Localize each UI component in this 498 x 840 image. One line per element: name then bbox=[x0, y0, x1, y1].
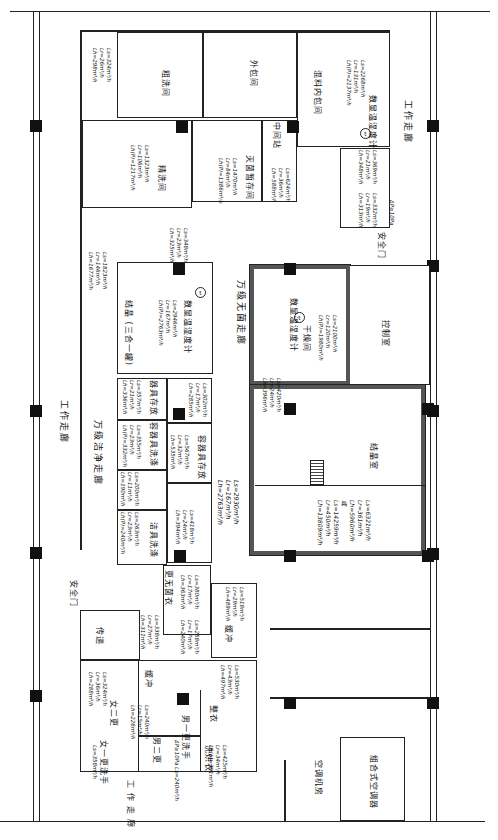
room-name-tidy-clothes: 整衣 bbox=[209, 705, 220, 723]
air-data-rough-wash: Ls=324m³/hLr=26m³/hLh=298m³/h bbox=[91, 48, 112, 83]
room-name-clean-tool-wash: 洁具洗涤 bbox=[149, 522, 160, 558]
air-data-tidy-clothes: Ls=530m³/hLr=43m³/hLh=497m³/h bbox=[219, 665, 240, 700]
air-data-men-change2: Ls=240m³/hLr=15m³/hLh=226m³/h bbox=[129, 705, 150, 740]
room-name-sterile-change: 更无菌衣 bbox=[164, 570, 175, 606]
air-data-container-storage: Ls=567m³/hLr=32m³/hLh=535m³/h bbox=[169, 435, 190, 470]
room-buffer-1 bbox=[80, 610, 140, 660]
column bbox=[176, 121, 188, 133]
column bbox=[177, 693, 189, 705]
column bbox=[287, 121, 299, 133]
air-data-sterile-corridor: Ls=2930m³/hLr=167m³/hLh=2763m³/h bbox=[216, 480, 240, 525]
column bbox=[284, 403, 296, 415]
room-name-rough-wash: 粗洗间 bbox=[161, 70, 172, 97]
room-name-mix-inner-pack: 混料内包间 bbox=[313, 70, 324, 115]
air-data-top-vestibule: Ls=348m³/hLr=23m³/hLh=325m³/h bbox=[168, 228, 189, 263]
air-data-sterile-change: Ls=380m³/hLr=17m³/hLh=363m³/h bbox=[179, 575, 200, 610]
room-name-buffer-3: 缓冲 bbox=[224, 625, 235, 643]
column bbox=[30, 405, 42, 417]
air-data-intermediate-station: Ls=624m³/hLr=36m³/hLh=588m³/h bbox=[270, 168, 291, 203]
room-name-intermediate-station: 中间站 bbox=[272, 122, 283, 149]
column bbox=[173, 408, 185, 420]
air-data-women-change1: Ls=358m³/h bbox=[91, 745, 98, 779]
room-name-outer-pack: 外包间 bbox=[249, 60, 260, 87]
sensor-label: 数显温湿度计 bbox=[289, 298, 300, 352]
room-name-women-change2: 女二更 bbox=[109, 700, 120, 727]
label-safety-door-right: 安全门 bbox=[377, 232, 388, 259]
room-name-crystallize-3in1: 结晶 (三合一罐) bbox=[124, 300, 135, 366]
air-data-sterile-storage: Ls=1470m³/hLr=84m³/hLh(P)=1386m³/h bbox=[217, 158, 238, 204]
air-data-airlock-center: Ls=420m³/hLr=24m³/hLh=396m³/h bbox=[261, 378, 282, 413]
room-name-tool-storage: 器具存放 bbox=[149, 380, 160, 416]
label-safety-door-left: 安全门 bbox=[69, 580, 80, 607]
room-name-buffer-1: 缓冲 bbox=[144, 670, 155, 688]
column bbox=[422, 403, 434, 415]
air-data-small-room: Ls=418m³/hLr=24m³/hLh=394m³/h bbox=[174, 510, 195, 545]
air-data-buffer-2: Ls=258m³/hLr=17m³/hLh=240m³/h bbox=[179, 620, 200, 655]
locker-divider bbox=[200, 690, 201, 772]
label-work-corridor-bottom: 工作走廊 bbox=[126, 780, 137, 832]
air-data-crystallize: Ls=6321m³/hLr=361m³/hLh=5960m³/h或Ls=1425… bbox=[316, 500, 372, 545]
column bbox=[30, 547, 42, 559]
air-data-mix-inner-pack: Ls=2268m³/hLr=131m³/hLh(P)=2137m³/h bbox=[345, 60, 366, 106]
column bbox=[174, 550, 186, 562]
ac-room-wall bbox=[270, 628, 430, 630]
air-data-container-wash: Ls=355m³/hLr=23m³/hLh(P)=332m³/h bbox=[121, 425, 142, 467]
crystallize-divider bbox=[255, 485, 425, 486]
label-pass-box: 传递 bbox=[95, 627, 106, 645]
thermo-hygrometer-icon: t bbox=[195, 287, 206, 298]
air-data-clean-tool-wash-a: Ls=200m³/hLr=11m³/hLh=190m³/h bbox=[119, 472, 140, 507]
room-name-sterile-storage: 灭菌暂存间 bbox=[245, 155, 256, 200]
room-name-container-storage: 容器具存放 bbox=[197, 435, 208, 480]
room-name-control: 控制室 bbox=[381, 320, 392, 347]
air-data-left-corridor: Ls=1823m³/hLr=146m³/hLh=1677m³/h bbox=[87, 252, 108, 290]
room-name-container-wash: 容器具洗涤 bbox=[149, 422, 160, 467]
label-clean-corridor: 万级洁净走廊 bbox=[92, 420, 105, 486]
air-data-wash-clothes: Ls=425m³/hLr=34m³/hLh(p)=391m³/h bbox=[207, 745, 228, 787]
column bbox=[173, 263, 185, 275]
inner-left-wall bbox=[80, 30, 82, 550]
air-data-right-small-2: Ls=332m³/hLr=19m³/hLh=313m³/h bbox=[357, 193, 378, 228]
bottom-boundary-line bbox=[0, 821, 485, 822]
column bbox=[284, 550, 296, 562]
air-data-crystallize-3in1: Ls=2946m³/hLr=167m³/hLh(P)=2763m³/h bbox=[157, 300, 178, 346]
column bbox=[30, 120, 42, 132]
room-name-men-change2: 男二更 bbox=[152, 737, 163, 764]
label-work-corridor-right: 工作走廊 bbox=[402, 100, 415, 144]
air-data-tool-storage-2: Ls=302m³/hLr=17m³/hLh=285m³/h bbox=[187, 383, 208, 418]
room-name-ahu: 组合式空调器 bbox=[369, 755, 380, 809]
column bbox=[284, 263, 296, 275]
air-data-dryer: Ls=2100m³/hLr=120m³/hLh(P)=1980m³/h bbox=[317, 315, 338, 361]
room-name-dryer: 干燥间 bbox=[302, 325, 313, 352]
column bbox=[427, 120, 439, 132]
label-sterile-corridor: 万级无菌走廊 bbox=[235, 280, 248, 346]
top-boundary-line bbox=[10, 11, 490, 12]
room-name-crystallize: 结晶室 bbox=[369, 443, 380, 470]
room-name-women-change1: 女一更洗手 bbox=[99, 740, 110, 785]
air-data-buffer-1: Ls=338m³/hLr=27m³/hLh=311m³/h bbox=[139, 615, 160, 650]
air-data-buffer-3: Ls=518m³/hLr=29m³/hLh=489m³/h bbox=[224, 587, 245, 622]
air-data-fine-wash: Ls=1323m³/hLr=106m³/hLh(P)=1217m³/h bbox=[129, 145, 150, 191]
column bbox=[30, 690, 42, 702]
ac-room-wall-v bbox=[284, 760, 286, 821]
label-work-corridor-left: 工作走廊 bbox=[58, 400, 71, 444]
air-data-right-small-1: Ls=369m³/hLr=21m³/hLh=348m³/h bbox=[357, 150, 378, 185]
room-name-ac-room: 空调机房 bbox=[314, 760, 325, 796]
air-data-clean-tool-wash: Ls=263m³/hLr=23m³/hLh(P)=240m³/h bbox=[119, 512, 140, 554]
room-rough-wash bbox=[117, 32, 203, 118]
sensor-label: 数显温湿度计 bbox=[183, 300, 194, 354]
air-data-women-change2: Ls=324m³/hLr=36m³/hLh=288m³/h bbox=[87, 672, 108, 707]
sensor-label: 数显温湿度计 bbox=[368, 95, 379, 149]
room-name-fine-wash: 精洗间 bbox=[157, 165, 168, 192]
room-name-men-change1: 男一更洗手 bbox=[181, 715, 192, 760]
pressure-note: ΔP≥10Pa bbox=[388, 200, 395, 225]
air-data-men-change1: ΔP≥10Pa Ls=240m³/h bbox=[173, 740, 180, 801]
column bbox=[422, 550, 434, 562]
air-data-tool-storage: Ls=357m³/hLr=21m³/hLh=336m³/h bbox=[121, 380, 142, 415]
column bbox=[284, 697, 296, 709]
stairs bbox=[310, 460, 324, 485]
